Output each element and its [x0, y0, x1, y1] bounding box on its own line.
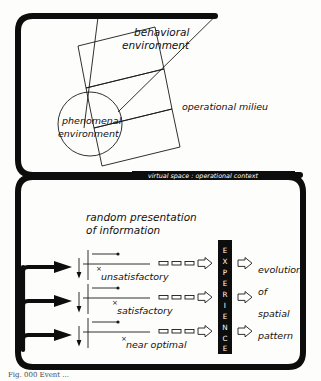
output-arrows — [238, 258, 252, 337]
virtual-space-band-label: virtual space : operational context — [148, 172, 259, 180]
experience-letter-7: N — [222, 323, 228, 332]
experience-letter-8: C — [222, 334, 227, 343]
experience-letter-5: I — [224, 301, 226, 310]
outcome-line-1: of — [258, 286, 269, 297]
figure-container: behavioral environment operational milie… — [0, 0, 321, 381]
experience-letter-4: R — [222, 290, 227, 299]
behavioral-environment-label-line1: behavioral — [134, 26, 190, 38]
experience-letter-6: E — [223, 312, 228, 321]
diagram-svg: behavioral environment operational milie… — [0, 0, 321, 381]
row-unsatisfactory-label: unsatisfactory — [101, 271, 169, 282]
operational-milieu-label: operational milieu — [182, 101, 268, 112]
experience-letter-1: X — [222, 257, 227, 266]
row-near-optimal-label: near optimal — [126, 339, 187, 350]
phenomenal-environment-label-line1: phenomenal — [61, 115, 122, 126]
experience-letter-9: E — [223, 344, 228, 353]
random-presentation-heading-line1: random presentation — [86, 211, 197, 223]
outcome-line-2: spatial — [258, 308, 290, 319]
experience-letter-3: E — [223, 279, 228, 288]
random-presentation-heading-line2: of information — [86, 224, 160, 236]
row-satisfactory-label: satisfactory — [117, 305, 173, 316]
figure-caption: Fig. 000 Event ... — [8, 371, 318, 379]
feedback-trunk — [23, 261, 72, 350]
experience-letter-2: P — [223, 268, 228, 277]
outcome-line-3: pattern — [257, 330, 293, 341]
phenomenal-environment-label-line2: environment — [58, 128, 120, 139]
experience-letter-0: E — [223, 246, 228, 255]
behavioral-environment-label-line2: environment — [122, 39, 190, 51]
outcome-line-0: evolution — [258, 264, 302, 275]
